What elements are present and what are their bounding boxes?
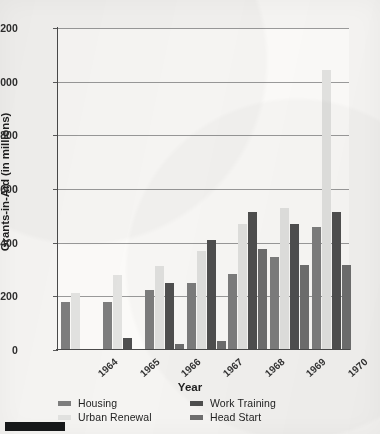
bar-group-1969 <box>270 28 309 350</box>
bar-group-1970 <box>312 28 351 350</box>
bar-group-1966 <box>145 28 184 350</box>
bar-housing-1968 <box>228 274 237 350</box>
scan-artifact <box>5 422 65 431</box>
plot-area <box>57 28 349 350</box>
y-tick-label: 600 <box>0 183 18 195</box>
bar-urban-renewal-1968 <box>238 224 247 350</box>
legend-swatch-icon <box>190 401 203 406</box>
bar-chart: Grants-in-Aid (in millions) 020040060080… <box>0 0 380 434</box>
chart-legend: HousingWork TrainingUrban RenewalHead St… <box>58 396 348 424</box>
bar-housing-1970 <box>312 227 321 350</box>
legend-label: Urban Renewal <box>78 411 152 423</box>
bar-housing-1967 <box>187 283 196 350</box>
legend-item-head-start: Head Start <box>190 410 318 424</box>
bar-housing-1966 <box>145 290 154 350</box>
bar-work-training-1966 <box>165 283 174 350</box>
bar-urban-renewal-1964 <box>71 293 80 350</box>
bar-work-training-1969 <box>290 224 299 350</box>
legend-swatch-icon <box>58 415 71 420</box>
bar-group-1967 <box>187 28 226 350</box>
bar-group-1965 <box>103 28 142 350</box>
bar-head-start-1970 <box>342 265 351 350</box>
bar-work-training-1967 <box>207 240 216 350</box>
chart-page: Grants-in-Aid (in millions) 020040060080… <box>0 0 380 434</box>
x-axis-line <box>56 349 350 350</box>
bar-head-start-1969 <box>300 265 309 350</box>
x-tick-label-1968: 1968 <box>262 356 286 379</box>
x-tick-label-1966: 1966 <box>179 356 203 379</box>
y-tick-label: 1000 <box>0 76 18 88</box>
bar-group-1964 <box>61 28 100 350</box>
y-axis-line <box>57 27 58 351</box>
y-tick-label: 400 <box>0 237 18 249</box>
legend-label: Housing <box>78 397 117 409</box>
x-axis-title: Year <box>0 381 380 393</box>
bar-urban-renewal-1969 <box>280 208 289 350</box>
legend-swatch-icon <box>190 415 203 420</box>
legend-label: Work Training <box>210 397 276 409</box>
bar-group-1968 <box>228 28 267 350</box>
y-tick-label: 800 <box>0 129 18 141</box>
x-tick-label-1969: 1969 <box>304 356 328 379</box>
bar-work-training-1968 <box>248 212 257 350</box>
legend-label: Head Start <box>210 411 261 423</box>
x-tick-label-1967: 1967 <box>221 356 245 379</box>
x-tick-label-1970: 1970 <box>346 356 370 379</box>
legend-swatch-icon <box>58 401 71 406</box>
bar-head-start-1968 <box>258 249 267 350</box>
bar-urban-renewal-1970 <box>322 70 331 350</box>
x-tick-label-1965: 1965 <box>137 356 161 379</box>
y-tick-label: 0 <box>0 344 18 356</box>
legend-item-housing: Housing <box>58 396 186 410</box>
bar-urban-renewal-1967 <box>197 251 206 350</box>
bar-housing-1964 <box>61 302 70 350</box>
y-tick-label: 200 <box>0 290 18 302</box>
x-tick-label-1964: 1964 <box>96 356 120 379</box>
bar-urban-renewal-1965 <box>113 275 122 350</box>
y-axis-title: Grants-in-Aid (in millions) <box>0 82 11 282</box>
bar-urban-renewal-1966 <box>155 266 164 350</box>
bar-housing-1969 <box>270 257 279 350</box>
bar-work-training-1970 <box>332 212 341 350</box>
legend-item-work-training: Work Training <box>190 396 318 410</box>
legend-item-urban-renewal: Urban Renewal <box>58 410 186 424</box>
bar-housing-1965 <box>103 302 112 350</box>
y-tick-label: 1200 <box>0 22 18 34</box>
